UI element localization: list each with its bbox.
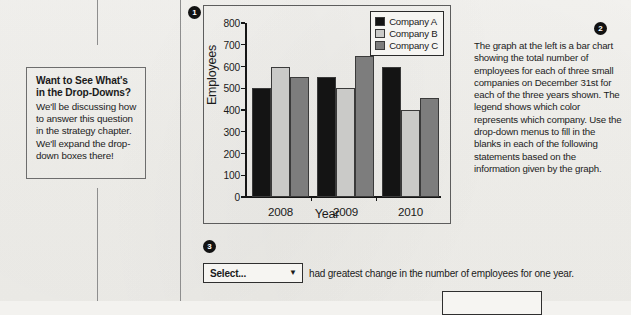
y-tickmark [241, 175, 245, 176]
badge-three: 3 [203, 240, 216, 253]
y-tick-label: 500 [214, 83, 240, 94]
legend-item: Company A [375, 16, 438, 27]
y-tick-labels: 0100200300400500600700800 [212, 6, 240, 223]
callout-body: We'll be discussing how to answer this q… [36, 101, 137, 163]
bar [355, 56, 374, 197]
chevron-down-icon: ▼ [289, 269, 297, 277]
description-text: The graph at the left is a bar chart sho… [474, 40, 624, 175]
legend-label: Company A [389, 16, 437, 27]
callout-title-line2: in the Drop-Downs? [36, 87, 131, 98]
legend-item: Company C [375, 40, 438, 51]
y-tick-label: 0 [214, 192, 240, 203]
y-tickmark [241, 88, 245, 89]
y-tickmark [241, 22, 245, 23]
legend-item: Company B [375, 28, 438, 39]
y-tick-label: 800 [214, 18, 240, 29]
column-rule-left [97, 0, 98, 45]
badge-one: 1 [188, 6, 201, 19]
y-tickmark [241, 109, 245, 110]
bar [271, 67, 290, 198]
x-tick-label: 2008 [268, 205, 293, 218]
y-tick-label: 200 [214, 148, 240, 159]
column-rule-left-lower [97, 188, 98, 301]
question-row: Select... ▼ had greatest change in the n… [203, 263, 574, 283]
bar [382, 67, 401, 198]
x-tickmark [376, 197, 377, 201]
y-tickmark [241, 66, 245, 67]
column-rule-mid [180, 0, 181, 301]
y-tick-label: 600 [214, 61, 240, 72]
x-tick-label: 2010 [398, 205, 423, 218]
y-tick-label: 700 [214, 39, 240, 50]
plot-area: Employees Year 0100200300400500600700800… [204, 6, 450, 223]
question-statement: had greatest change in the number of emp… [309, 268, 574, 279]
next-dropdown-box[interactable] [442, 291, 542, 315]
y-tickmark [241, 131, 245, 132]
bar [252, 88, 271, 197]
legend-swatch [375, 17, 385, 26]
y-tickmark [241, 196, 245, 197]
x-tickmark [311, 197, 312, 201]
y-tickmark [241, 44, 245, 45]
callout-title-line1: Want to See What's [36, 75, 128, 86]
bar [290, 77, 309, 197]
legend-swatch [375, 29, 385, 38]
bar [401, 110, 420, 197]
y-tick-label: 300 [214, 126, 240, 137]
legend-label: Company B [389, 28, 437, 39]
bar-chart-panel: Employees Year 0100200300400500600700800… [203, 5, 451, 224]
bar [336, 88, 355, 197]
y-tick-label: 100 [214, 170, 240, 181]
dropdown-value: Select... [210, 268, 246, 279]
x-tick-label: 2009 [333, 205, 358, 218]
answer-dropdown[interactable]: Select... ▼ [203, 263, 303, 283]
badge-two: 2 [594, 22, 607, 35]
bar [420, 98, 439, 197]
legend-label: Company C [389, 40, 438, 51]
bar [317, 77, 336, 197]
y-tick-label: 400 [214, 105, 240, 116]
callout-box: Want to See What's in the Drop-Downs? We… [26, 67, 146, 179]
callout-title: Want to See What's in the Drop-Downs? [36, 75, 137, 100]
chart-legend: Company ACompany BCompany C [370, 11, 444, 56]
y-tickmark [241, 153, 245, 154]
legend-swatch [375, 41, 385, 50]
